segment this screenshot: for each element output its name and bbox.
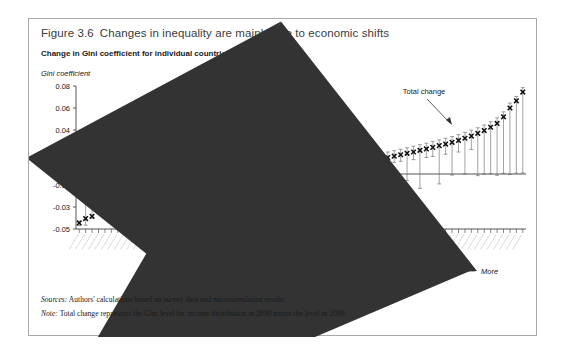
range-bar [508,103,512,175]
annotation-total-arrowhead [446,117,452,125]
note-label: Note: [41,309,58,318]
y-tick-label: -0.03 [53,203,70,212]
figure-frame: Figure 3.6Changes in inequality are main… [28,18,537,336]
range-bar [469,130,473,149]
figure-note: Note: Total change represents the Gini l… [41,309,346,318]
y-tick-label: 0.08 [55,82,70,91]
chart-plot: 0.080.060.040.02-0.01-0.03-0.05—————————… [29,19,538,337]
range-bar [457,135,461,152]
note-text: Total change represents the Gini level f… [60,309,347,318]
y-tick-label: -0.05 [53,225,70,234]
range-bar [502,112,506,174]
y-tick-label: 0.06 [55,104,70,113]
sources-text: Authors' calculations based on survey da… [69,295,287,304]
range-bar [495,118,499,175]
y-tick-label: 0.04 [55,126,70,135]
annotation-total-change: Total change [403,87,446,96]
annotation-total-arrow [427,99,450,123]
sources-label: Sources: [41,295,67,304]
range-bar [521,88,525,173]
axis-more-label: More [481,267,498,276]
range-bar [514,96,518,173]
sources-note: Sources: Authors' calculations based on … [41,295,286,304]
